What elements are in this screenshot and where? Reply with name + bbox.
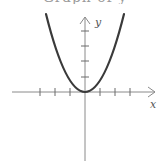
y-axis-label: y xyxy=(94,16,102,29)
y-axis xyxy=(80,17,90,161)
parabola-plot: y x xyxy=(0,0,158,161)
x-axis-label: x xyxy=(150,98,157,111)
